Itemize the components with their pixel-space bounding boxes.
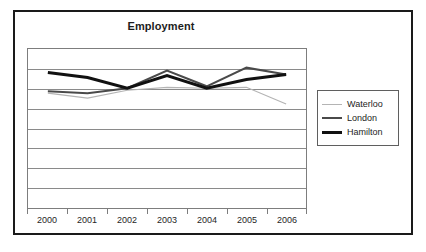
chart-figure-frame: Employment 2000200120022003200420052006 … (13, 10, 413, 235)
x-axis-label: 2000 (27, 215, 67, 225)
x-axis-tick (227, 209, 228, 214)
line-swatch-waterloo-icon (322, 99, 342, 109)
x-axis-label: 2001 (67, 215, 107, 225)
x-axis-tick (67, 209, 68, 214)
series-line-waterloo (48, 87, 286, 104)
legend-item-hamilton: Hamilton (322, 125, 393, 139)
x-axis-tick (27, 209, 28, 214)
plot-area (27, 48, 307, 209)
x-axis-tick (147, 209, 148, 214)
chart-title: Employment (15, 20, 307, 32)
line-swatch-hamilton-icon (322, 127, 342, 137)
x-axis-labels: 2000200120022003200420052006 (27, 215, 307, 229)
x-axis-tick (267, 209, 268, 214)
x-axis-label: 2005 (227, 215, 267, 225)
legend-label-hamilton: Hamilton (347, 127, 383, 137)
legend-item-waterloo: Waterloo (322, 97, 393, 111)
x-axis-label: 2003 (147, 215, 187, 225)
legend-label-waterloo: Waterloo (347, 99, 383, 109)
series-line-hamilton (48, 73, 286, 89)
x-axis-tick (187, 209, 188, 214)
x-axis-label: 2002 (107, 215, 147, 225)
x-axis-tick (107, 209, 108, 214)
x-axis-label: 2006 (267, 215, 307, 225)
x-axis-tick (306, 209, 307, 214)
chart-legend: Waterloo London Hamilton (317, 90, 399, 146)
x-axis-label: 2004 (187, 215, 227, 225)
line-swatch-london-icon (322, 113, 342, 123)
legend-label-london: London (347, 113, 377, 123)
series-lines (28, 49, 306, 208)
legend-item-london: London (322, 111, 393, 125)
